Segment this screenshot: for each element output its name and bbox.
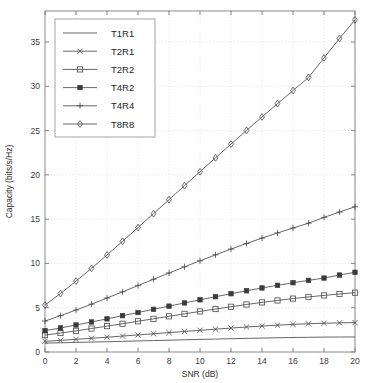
legend-label-t8r8: T8R8	[111, 119, 134, 130]
x-tick-label: 16	[288, 356, 298, 366]
series-marker-t4r2	[89, 320, 93, 324]
y-tick-label: 0	[35, 347, 40, 357]
series-marker-t4r2	[58, 326, 62, 330]
series-marker-t4r4	[336, 209, 342, 215]
series-marker-t4r2	[213, 295, 217, 299]
series-marker-t4r4	[181, 264, 187, 270]
series-marker-t4r4	[243, 240, 249, 246]
legend-label-t2r1: T2R1	[111, 46, 134, 57]
series-marker-t4r2	[260, 286, 264, 290]
x-tick-label: 14	[257, 356, 267, 366]
x-axis-label: SNR (dB)	[182, 369, 219, 379]
series-marker-t4r4	[290, 225, 296, 231]
series-marker-t4r2	[136, 310, 140, 314]
y-axis-label: Capacity (bits/s/Hz)	[4, 144, 14, 218]
x-tick-label: 12	[226, 356, 236, 366]
legend-label-t1r1: T1R1	[111, 28, 134, 39]
capacity-vs-snr-chart: 0246810121416182005101520253035SNR (dB)C…	[0, 0, 370, 383]
series-marker-t4r4	[274, 230, 280, 236]
series-marker-t4r2	[120, 313, 124, 317]
series-marker-t4r4	[212, 252, 218, 258]
x-tick-label: 2	[74, 356, 79, 366]
legend-label-t4r4: T4R4	[111, 100, 134, 111]
series-marker-t4r2	[306, 278, 310, 282]
y-tick-label: 10	[31, 258, 41, 268]
series-marker-t4r4	[228, 246, 234, 252]
series-marker-t4r2	[74, 323, 78, 327]
y-tick-label: 15	[31, 214, 41, 224]
x-tick-label: 20	[350, 356, 360, 366]
series-marker-t4r4	[321, 214, 327, 220]
series-marker-t4r2	[182, 301, 186, 305]
series-marker-t4r4	[119, 289, 125, 295]
x-tick-label: 4	[105, 356, 110, 366]
y-tick-label: 35	[31, 37, 41, 47]
series-marker-t4r4	[259, 235, 265, 241]
x-tick-label: 6	[136, 356, 141, 366]
x-tick-label: 10	[195, 356, 205, 366]
series-marker-t4r4	[104, 295, 110, 301]
series-marker-t4r4	[166, 270, 172, 276]
series-marker-t4r2	[275, 283, 279, 287]
legend-label-t4r2: T4R2	[111, 82, 134, 93]
series-marker-t4r2	[291, 281, 295, 285]
x-tick-label: 18	[319, 356, 329, 366]
series-marker-t4r4	[352, 204, 358, 210]
series-marker-t4r2	[244, 289, 248, 293]
series-marker-t4r2	[105, 317, 109, 321]
y-tick-label: 5	[35, 303, 40, 313]
series-marker-t4r4	[135, 282, 141, 288]
y-tick-label: 30	[31, 81, 41, 91]
series-marker-t4r4	[42, 318, 48, 324]
legend-box	[55, 19, 155, 137]
series-marker-t4r2	[322, 276, 326, 280]
series-marker-t4r4	[305, 220, 311, 226]
series-marker-t4r2	[229, 292, 233, 296]
series-marker-t4r4	[197, 258, 203, 264]
y-tick-label: 20	[31, 170, 41, 180]
x-tick-label: 8	[167, 356, 172, 366]
series-marker-t4r2	[151, 307, 155, 311]
y-tick-label: 25	[31, 126, 41, 136]
series-marker-t4r4	[88, 301, 94, 307]
series-marker-t4r2	[167, 304, 171, 308]
x-tick-label: 0	[43, 356, 48, 366]
legend-label-t2r2: T2R2	[111, 64, 134, 75]
series-marker-t4r2	[353, 270, 357, 274]
series-marker-t4r4	[57, 313, 63, 319]
series-marker-t4r4	[150, 276, 156, 282]
series-marker-t4r2	[337, 273, 341, 277]
series-marker-t4r2	[198, 298, 202, 302]
legend-marker-t4r2	[78, 85, 82, 89]
chart-canvas: 0246810121416182005101520253035SNR (dB)C…	[0, 0, 370, 383]
series-marker-t4r2	[43, 329, 47, 333]
